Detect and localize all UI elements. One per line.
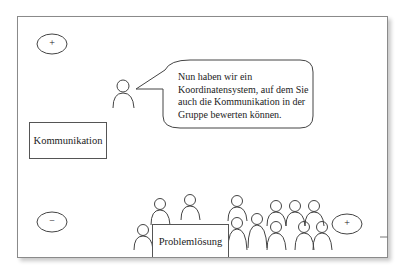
person-icon (151, 199, 170, 226)
person-icon (305, 201, 324, 227)
plus-marker-top-left: + (42, 37, 62, 48)
plus-marker-bottom-right: + (337, 217, 357, 228)
minus-marker-bottom-left: − (42, 215, 62, 226)
person-icon (248, 214, 267, 249)
speaker-person-icon (113, 80, 134, 108)
person-icon (313, 222, 332, 251)
speech-bubble-text: Nun haben wir ein Koordinatensystem, auf… (178, 71, 312, 121)
person-icon (181, 195, 200, 221)
person-icon (134, 225, 153, 251)
problemloesung-axis-label: Problemlösung (152, 224, 229, 257)
kommunikation-axis-label: Kommunikation (29, 122, 107, 159)
person-icon (267, 222, 286, 251)
person-icon (228, 218, 247, 251)
person-icon (267, 201, 286, 227)
